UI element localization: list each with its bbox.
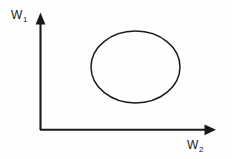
right-arrow-icon (205, 125, 217, 136)
y-axis-label-subscript: 1 (23, 15, 28, 24)
x-axis-label-base: W (187, 138, 199, 152)
diagram-svg (0, 0, 232, 159)
figure-canvas: W1 W2 (0, 0, 232, 159)
y-axis-label-base: W (11, 8, 23, 22)
x-axis-label: W2 (187, 139, 203, 151)
y-axis-label: W1 (11, 9, 27, 21)
up-arrow-icon (36, 13, 46, 25)
feasible-region-ellipse (91, 31, 180, 103)
x-axis-label-subscript: 2 (199, 145, 204, 154)
